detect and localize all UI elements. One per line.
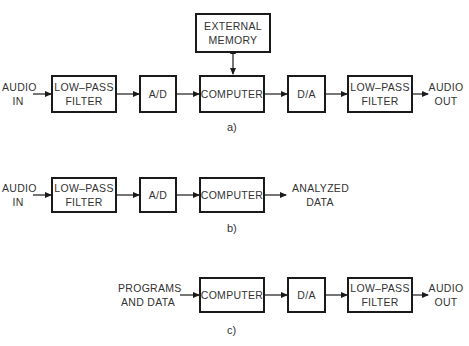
- low-pass-filter-out-c: LOW–PASS FILTER: [347, 277, 413, 313]
- computer-a: COMPUTER: [199, 75, 265, 113]
- caption-b: b): [227, 222, 237, 234]
- audio-out-label-a: AUDIO OUT: [428, 80, 464, 108]
- audio-in-label-a: AUDIO IN: [2, 80, 34, 108]
- caption-c: c): [227, 324, 236, 336]
- ad-converter-b: A/D: [139, 177, 177, 213]
- low-pass-filter-in-a: LOW–PASS FILTER: [51, 75, 117, 113]
- audio-out-label-c: AUDIO OUT: [428, 281, 464, 309]
- computer-b: COMPUTER: [199, 177, 265, 213]
- ad-converter-a: A/D: [139, 75, 177, 113]
- external-memory: EXTERNAL MEMORY: [195, 13, 271, 53]
- low-pass-filter-in-b: LOW–PASS FILTER: [51, 177, 117, 213]
- computer-c: COMPUTER: [199, 277, 265, 313]
- da-converter-c: D/A: [287, 277, 326, 313]
- da-converter-a: D/A: [287, 75, 326, 113]
- low-pass-filter-out-a: LOW–PASS FILTER: [347, 75, 413, 113]
- audio-in-label-b: AUDIO IN: [2, 181, 34, 209]
- caption-a: a): [227, 121, 237, 133]
- programs-and-data-label: PROGRAMS AND DATA: [118, 281, 178, 309]
- analyzed-data-label: ANALYZED DATA: [292, 181, 348, 209]
